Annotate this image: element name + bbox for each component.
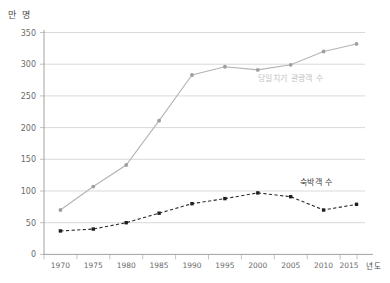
data-point [124, 163, 128, 167]
x-tick-label: 2000 [248, 261, 267, 270]
x-tick-label: 1995 [215, 261, 234, 270]
chart-svg: 350 300 250 200 150 100 50 0 만 명 1970 19… [0, 0, 390, 283]
data-point [190, 202, 193, 205]
data-point [59, 208, 63, 212]
x-tick-labels: 1970 1975 1980 1985 1990 1995 2000 2005 … [51, 261, 359, 270]
y-tick-label: 350 [21, 29, 36, 38]
y-tick-label: 100 [21, 187, 36, 196]
data-point [289, 195, 292, 198]
data-point [157, 119, 161, 123]
data-point [190, 73, 194, 77]
line-chart: 350 300 250 200 150 100 50 0 만 명 1970 19… [0, 0, 390, 283]
data-point [289, 63, 293, 67]
x-tick-label: 1990 [182, 261, 201, 270]
data-point [59, 229, 62, 232]
y-tick-label: 200 [21, 124, 36, 133]
x-tick-label: 1985 [150, 261, 169, 270]
series-label-overnight-guests: 숙박객 수 [300, 177, 333, 187]
x-tick-label: 1975 [84, 261, 103, 270]
data-point [157, 211, 160, 214]
data-point [223, 197, 226, 200]
data-point [322, 50, 326, 54]
y-tick-label: 300 [21, 60, 36, 69]
data-point [256, 68, 260, 72]
x-axis-unit-label: 년도 [366, 261, 381, 271]
data-point [355, 42, 359, 46]
gridlines [44, 33, 365, 223]
series-label-day-trip-tourists: 당일치기 관광객 수 [258, 73, 323, 83]
y-tick-label: 0 [31, 250, 36, 259]
data-point [322, 208, 325, 211]
x-tick-label: 1980 [117, 261, 136, 270]
x-tick-label: 2005 [281, 261, 300, 270]
y-axis-unit-label: 만 명 [8, 10, 31, 20]
series-line-overnight-guests [60, 193, 356, 231]
x-tick-label: 2010 [314, 261, 333, 270]
data-point [125, 221, 128, 224]
y-tick-marks [40, 33, 44, 255]
data-point [92, 227, 95, 230]
y-tick-labels: 350 300 250 200 150 100 50 0 [21, 29, 36, 260]
data-point [256, 191, 259, 194]
series-points-overnight-guests [59, 191, 358, 232]
y-tick-label: 50 [26, 219, 36, 228]
x-tick-label: 1970 [51, 261, 70, 270]
x-tick-label: 2015 [339, 261, 358, 270]
data-point [223, 65, 227, 69]
data-point [91, 185, 95, 189]
y-tick-label: 150 [21, 155, 36, 164]
data-point [355, 203, 358, 206]
x-tick-marks [44, 254, 357, 259]
y-tick-label: 250 [21, 92, 36, 101]
